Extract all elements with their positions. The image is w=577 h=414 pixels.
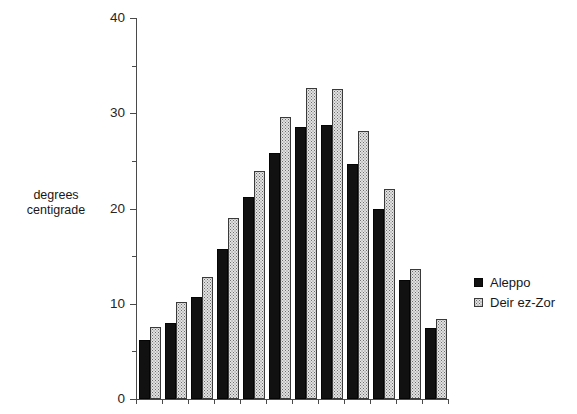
y-axis-tick: 10	[130, 304, 136, 305]
legend-item-label: Aleppo	[490, 275, 530, 290]
legend-item-label: Deir ez-Zor	[490, 295, 555, 310]
x-axis-tick	[370, 399, 371, 404]
y-axis-minor-tick	[132, 66, 136, 67]
y-axis-tick-label: 20	[110, 201, 125, 216]
bar-aleppo-12	[425, 328, 436, 399]
bar-aleppo-3	[191, 297, 202, 399]
y-axis-tick-label: 30	[110, 105, 125, 120]
x-axis-tick	[344, 399, 345, 404]
y-axis-tick-label: 10	[110, 296, 125, 311]
bar-deir-ez-zor-3	[202, 277, 213, 399]
bar-aleppo-6	[269, 153, 280, 399]
x-axis-tick	[318, 399, 319, 404]
bar-deir-ez-zor-7	[306, 88, 317, 399]
bar-aleppo-2	[165, 323, 176, 399]
bar-aleppo-9	[347, 164, 358, 399]
bar-deir-ez-zor-2	[176, 302, 187, 399]
legend-item-deir-ez-zor[interactable]: Deir ez-Zor	[474, 292, 577, 312]
x-axis-tick	[188, 399, 189, 404]
y-axis-minor-tick	[132, 351, 136, 352]
bar-aleppo-5	[243, 197, 254, 399]
y-axis-tick: 30	[130, 113, 136, 114]
bar-aleppo-1	[139, 340, 150, 399]
legend-swatch-icon	[474, 298, 483, 307]
y-axis-minor-tick	[132, 256, 136, 257]
bar-deir-ez-zor-10	[384, 189, 395, 399]
bar-deir-ez-zor-12	[436, 319, 447, 399]
bar-aleppo-7	[295, 127, 306, 399]
bar-group-container	[137, 18, 448, 399]
legend-swatch-icon	[474, 278, 483, 287]
legend-item-aleppo[interactable]: Aleppo	[474, 272, 577, 292]
x-axis-tick	[162, 399, 163, 404]
y-axis-minor-tick	[132, 161, 136, 162]
x-axis-tick	[214, 399, 215, 404]
bar-deir-ez-zor-1	[150, 327, 161, 399]
x-axis-tick	[448, 399, 449, 404]
y-axis-tick-label: 40	[110, 10, 125, 25]
y-axis-tick-label: 0	[117, 391, 125, 406]
bar-aleppo-11	[399, 280, 410, 399]
bar-deir-ez-zor-9	[358, 131, 369, 399]
y-axis-tick: 20	[130, 209, 136, 210]
bar-deir-ez-zor-6	[280, 117, 291, 399]
x-axis-tick	[136, 399, 137, 404]
y-axis-label: degrees centigrade	[6, 188, 106, 217]
bar-aleppo-4	[217, 249, 228, 399]
bar-deir-ez-zor-4	[228, 218, 239, 399]
x-axis-tick	[292, 399, 293, 404]
bar-deir-ez-zor-5	[254, 171, 265, 399]
x-axis-tick	[422, 399, 423, 404]
plot-area: 010203040	[136, 18, 448, 399]
chart-legend: AleppoDeir ez-Zor	[474, 272, 577, 312]
x-axis-tick	[240, 399, 241, 404]
bar-deir-ez-zor-11	[410, 269, 421, 399]
chart-figure: degrees centigrade 010203040 AleppoDeir …	[0, 0, 577, 414]
x-axis-tick	[266, 399, 267, 404]
y-axis-tick: 40	[130, 18, 136, 19]
x-axis-tick	[396, 399, 397, 404]
bar-aleppo-10	[373, 209, 384, 400]
bar-aleppo-8	[321, 125, 332, 399]
bar-deir-ez-zor-8	[332, 89, 343, 399]
